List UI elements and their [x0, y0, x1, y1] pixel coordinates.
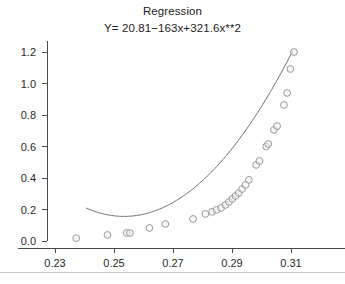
data-point	[287, 66, 294, 73]
y-tick-label: 1.0	[21, 78, 36, 90]
data-point	[281, 102, 288, 109]
y-tick-label: 1.2	[21, 46, 36, 58]
data-point	[265, 141, 272, 148]
scatter-data-points	[73, 49, 298, 242]
x-tick-label: 0.25	[103, 257, 124, 269]
data-point	[291, 49, 298, 56]
data-point	[245, 176, 252, 183]
data-point	[202, 211, 209, 218]
x-tick-label: 0.27	[162, 257, 183, 269]
y-tick-label: 0.6	[21, 141, 36, 153]
data-point	[256, 158, 263, 165]
y-axis-tick-labels: 0.00.20.40.60.81.01.2	[21, 46, 36, 247]
data-point	[146, 225, 153, 232]
data-point	[284, 90, 291, 97]
x-tick-label: 0.31	[280, 257, 301, 269]
y-axis-tick-marks	[42, 52, 47, 241]
data-point	[127, 230, 134, 237]
data-point	[104, 232, 111, 239]
regression-fit-curve	[86, 51, 293, 216]
x-tick-label: 0.29	[221, 257, 242, 269]
data-point	[190, 216, 197, 223]
y-tick-label: 0.2	[21, 204, 36, 216]
x-axis-tick-marks	[55, 248, 291, 253]
regression-chart-figure: Regression Y= 20.81−163x+321.6x**2 0.00.…	[0, 0, 345, 284]
x-axis-tick-labels: 0.230.250.270.290.31	[44, 257, 301, 269]
data-point	[274, 123, 281, 130]
y-tick-label: 0.8	[21, 109, 36, 121]
x-tick-label: 0.23	[44, 257, 65, 269]
y-tick-label: 0.4	[21, 172, 36, 184]
data-point	[73, 235, 80, 242]
y-tick-label: 0.0	[21, 235, 36, 247]
bottom-divider	[0, 272, 345, 273]
data-point	[162, 221, 169, 228]
plot-area: 0.00.20.40.60.81.01.2 0.230.250.270.290.…	[0, 0, 345, 284]
